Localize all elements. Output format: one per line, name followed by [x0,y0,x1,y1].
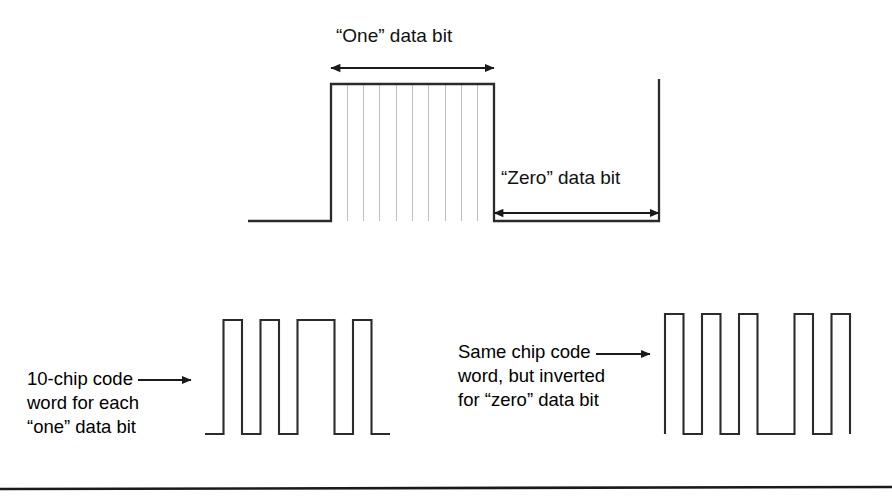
chip-divider-lines [347,84,477,221]
data-bit-envelope-trace [248,79,659,221]
left-callout-line-1: 10-chip code [27,367,139,391]
left-callout-text: 10-chip code word for each “one” data bi… [27,367,139,439]
left-callout-line-3: “one” data bit [27,415,139,439]
figure-canvas: “One” data bit “Zero” data bit 10-chip c… [0,0,892,497]
chip-code-word-one-waveform [205,320,390,434]
left-callout-line-2: word for each [27,391,139,415]
zero-data-bit-label: “Zero” data bit [501,166,620,190]
top-data-bit-waveform [248,79,659,221]
chip-code-word-zero-waveform [665,314,850,434]
right-callout-text: Same chip code word, but inverted for “z… [458,340,605,412]
right-callout-line-2: word, but inverted [458,364,605,388]
right-callout-line-3: for “zero” data bit [458,388,605,412]
bottom-divider-rule [0,487,892,489]
right-callout-line-1: Same chip code [458,340,605,364]
one-data-bit-label: “One” data bit [336,24,452,48]
